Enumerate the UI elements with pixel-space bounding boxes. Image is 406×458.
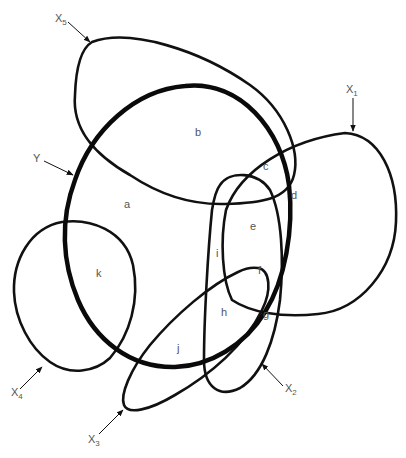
region-label-i: i: [216, 247, 218, 259]
set-diagram: X5 X1 Y X4 X3 X2 a b c d e f g h i j k: [0, 0, 406, 458]
set-label-x5: X5: [55, 12, 67, 27]
set-label-x2: X2: [285, 382, 297, 397]
region-label-h: h: [221, 306, 227, 318]
region-label-b: b: [195, 126, 201, 138]
set-x1-outline: [223, 133, 397, 315]
region-label-c: c: [263, 160, 269, 172]
set-label-y: Y: [33, 152, 41, 164]
x5-pointer-arrow: [68, 22, 90, 42]
region-label-a: a: [124, 198, 131, 210]
y-pointer-arrow: [44, 161, 73, 175]
region-label-d: d: [291, 189, 297, 201]
region-label-g: g: [263, 308, 269, 320]
x4-pointer-arrow: [20, 367, 42, 389]
set-label-x1: X1: [346, 83, 358, 98]
set-label-x3: X3: [88, 433, 100, 448]
region-label-e: e: [250, 220, 256, 232]
x2-pointer-arrow: [262, 364, 283, 386]
x3-pointer-arrow: [99, 410, 123, 434]
set-label-x4: X4: [11, 386, 23, 401]
set-x3-outline: [123, 268, 268, 411]
region-label-j: j: [176, 342, 179, 354]
region-label-k: k: [96, 267, 102, 279]
